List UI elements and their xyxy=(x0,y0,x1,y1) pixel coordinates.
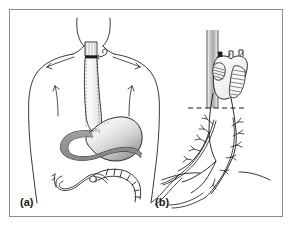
cervical-esophagus-stump xyxy=(85,42,97,56)
gastric-conduit xyxy=(84,58,101,131)
medical-illustration-svg xyxy=(0,0,292,235)
gastroepiploic-arcade xyxy=(161,118,234,197)
shoulder-outline-left xyxy=(47,57,74,116)
panel-b-group xyxy=(152,30,270,208)
panel-a-group xyxy=(29,18,160,203)
shoulder-outline-right xyxy=(113,57,140,116)
anastomosis-arrow xyxy=(97,49,108,59)
staple-line-anterior xyxy=(213,63,226,80)
jejunum xyxy=(52,174,108,191)
panel-label-b: (b) xyxy=(155,196,169,208)
panel-label-a: (a) xyxy=(20,196,33,208)
figure-root: (a) (b) xyxy=(0,0,292,235)
